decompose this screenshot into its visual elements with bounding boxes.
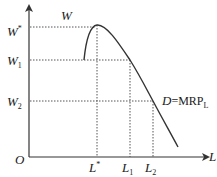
demand-curve-label: D=MRPL [161,93,209,110]
label-w2: W2 [7,94,22,111]
labor-demand-diagram: W* W1 W2 O L* L1 L2 L W D=MRPL [0,0,217,177]
origin-label: O [15,152,25,167]
label-w-star: W* [7,24,22,39]
label-l-star: L* [88,160,100,175]
label-l1: L1 [121,160,133,177]
label-w1: W1 [7,53,22,70]
x-axis-label: L [208,149,216,164]
peak-label: W [61,8,73,23]
label-l2: L2 [144,160,156,177]
demand-curve [84,25,178,147]
